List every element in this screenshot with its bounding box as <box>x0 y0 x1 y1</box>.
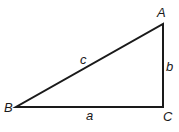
side-label-c: c <box>80 52 87 67</box>
side-label-b: b <box>166 59 173 74</box>
triangle-diagram: A B C a b c <box>0 0 179 132</box>
vertex-label-a: A <box>156 5 166 20</box>
vertex-label-c: C <box>163 109 173 124</box>
vertex-label-b: B <box>4 100 13 115</box>
triangle-shape <box>16 24 163 107</box>
side-label-a: a <box>86 108 93 123</box>
